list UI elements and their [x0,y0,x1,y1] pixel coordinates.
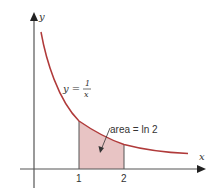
curve-label-denominator: x [84,90,89,99]
curve-label-lhs: y = [62,83,80,94]
tick-label-1: 1 [76,173,82,184]
x-axis-arrow-icon [197,165,206,173]
y-axis-label: y [38,11,45,22]
curve-label-numerator: 1 [85,79,90,88]
tick-label-2: 2 [121,173,127,184]
diagram-canvas: y x y = 1 x area = ln 2 1 2 [0,0,220,195]
y-axis-arrow-icon [30,12,38,21]
area-label: area = ln 2 [110,124,158,135]
x-axis-label: x [199,151,205,162]
